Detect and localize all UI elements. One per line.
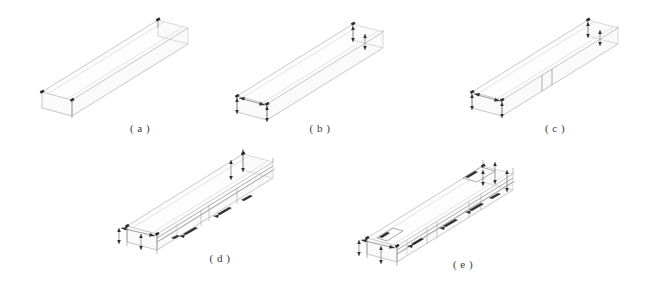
panel-d: ( d ) [105, 148, 320, 273]
caption-b: ( b ) [300, 122, 340, 134]
panel-c-drawing [430, 0, 645, 125]
dimension-arrow-left-vertical [117, 228, 121, 244]
dimension-arrow-left-vertical [357, 240, 361, 256]
caption-a: ( a ) [120, 122, 160, 134]
panel-a: ( a ) [0, 0, 215, 125]
figure-root: ( a ) [0, 0, 645, 290]
panel-a-drawing [0, 0, 215, 125]
panel-b-drawing [215, 0, 430, 125]
caption-d: ( d ) [200, 252, 240, 264]
panel-c: ( c ) [430, 0, 645, 125]
caption-e: ( e ) [443, 258, 483, 270]
panel-e-drawing [345, 148, 560, 273]
panel-e: ( e ) [345, 148, 560, 273]
panel-b: ( b ) [215, 0, 430, 125]
caption-c: ( c ) [535, 122, 575, 134]
